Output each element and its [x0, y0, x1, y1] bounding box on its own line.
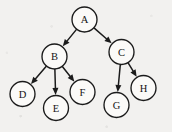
nodes-layer: ABCDEFGH [10, 7, 156, 121]
edge-line [63, 67, 71, 77]
node-h[interactable]: H [131, 76, 156, 101]
edge-c-g [115, 65, 121, 92]
node-label: A [81, 14, 89, 25]
edge-b-f [63, 67, 75, 82]
edge-line [128, 63, 133, 71]
tree-diagram: ABCDEFGH [0, 0, 172, 132]
node-label: F [80, 87, 86, 98]
edge-b-d [31, 66, 46, 84]
edge-line [55, 69, 56, 87]
node-label: B [51, 51, 58, 62]
edge-line [94, 28, 106, 39]
node-a[interactable]: A [72, 7, 97, 32]
edge-line [36, 66, 47, 78]
node-label: G [113, 100, 121, 111]
node-e[interactable]: E [44, 96, 69, 121]
edge-line [67, 30, 76, 41]
arrowhead-icon [115, 85, 121, 92]
edge-a-c [94, 28, 111, 43]
edge-b-e [52, 69, 58, 94]
node-label: D [19, 89, 27, 100]
node-c[interactable]: C [109, 40, 134, 65]
node-label: E [53, 103, 59, 114]
node-b[interactable]: B [42, 44, 67, 69]
node-d[interactable]: D [10, 82, 35, 107]
edge-a-b [63, 30, 77, 47]
node-label: C [118, 47, 125, 58]
node-label: H [140, 83, 148, 94]
node-f[interactable]: F [70, 80, 95, 105]
tree-diagram-canvas: ABCDEFGH [0, 0, 172, 132]
node-g[interactable]: G [104, 93, 129, 118]
edge-line [118, 65, 120, 85]
edge-c-h [128, 63, 136, 77]
arrowhead-icon [52, 88, 58, 95]
